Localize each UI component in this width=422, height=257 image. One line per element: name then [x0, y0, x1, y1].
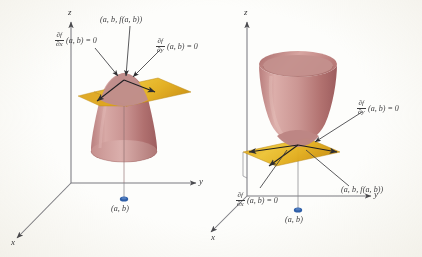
z-axis-label: z [244, 8, 248, 17]
base-point-label: (a, b) [285, 216, 303, 224]
x-axis-label: x [11, 238, 15, 247]
leader-tangent-point [306, 150, 349, 186]
base-point-label: (a, b) [111, 205, 129, 213]
leader-tangent-point [126, 26, 130, 76]
partial-x-tail: (a, b) = 0 [66, 36, 97, 45]
partial-x-label: ∂f ∂x (a, b) = 0 [55, 32, 97, 48]
partial-y-denominator: ∂y [357, 109, 366, 116]
partial-y-label: ∂f ∂y (a, b) = 0 [357, 100, 399, 116]
z-axis-label: z [68, 8, 72, 17]
partial-y-denominator: ∂y [156, 47, 165, 54]
partial-x-numerator: ∂f [56, 32, 63, 39]
partial-y-numerator: ∂f [358, 100, 365, 107]
partial-y-label: ∂f ∂y (a, b) = 0 [156, 38, 198, 54]
tangent-point-label: (a, b, f(a, b)) [100, 16, 142, 24]
partial-x-fraction: ∂f ∂x [55, 32, 64, 48]
base-point-highlight [121, 197, 126, 200]
partial-x-denominator: ∂x [55, 41, 64, 48]
partial-y-numerator: ∂f [157, 38, 164, 45]
plane-guide-foot [243, 176, 247, 178]
partial-y-fraction: ∂f ∂y [156, 38, 165, 54]
surface-min-cavity [263, 55, 333, 76]
surface-max-above-plane [100, 73, 148, 106]
partial-y-tail: (a, b) = 0 [368, 104, 399, 113]
partial-x-denominator: ∂x [236, 201, 245, 208]
right-diagram-panel: z y x ∂f ∂y (a, b) = 0 ∂f ∂x (a, b) = 0 … [211, 0, 422, 257]
leader-partial-x [95, 48, 118, 76]
partial-x-label: ∂f ∂x (a, b) = 0 [236, 192, 278, 208]
partial-y-tail: (a, b) = 0 [167, 42, 198, 51]
x-axis-label: x [211, 233, 215, 242]
partial-x-numerator: ∂f [237, 192, 244, 199]
y-axis-label: y [199, 177, 203, 186]
base-point-highlight [295, 208, 300, 211]
right-diagram-graphics [211, 0, 422, 257]
partial-y-fraction: ∂f ∂y [357, 100, 366, 116]
partial-x-tail: (a, b) = 0 [247, 196, 278, 205]
x-axis-line [17, 183, 71, 238]
figure-canvas: z y x (a, b, f(a, b)) ∂f ∂x (a, b) = 0 ∂… [0, 0, 422, 257]
tangent-point-label: (a, b, f(a, b)) [341, 186, 383, 194]
left-diagram-panel: z y x (a, b, f(a, b)) ∂f ∂x (a, b) = 0 ∂… [0, 0, 211, 257]
partial-x-fraction: ∂f ∂x [236, 192, 245, 208]
